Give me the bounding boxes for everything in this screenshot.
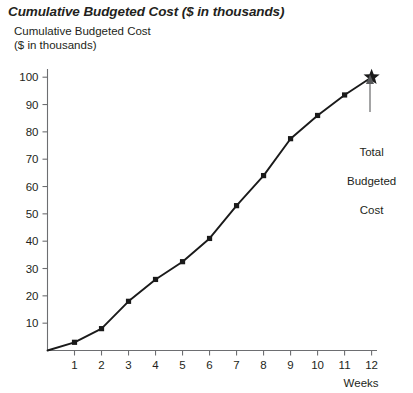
y-tick-label: 50 <box>26 208 39 220</box>
data-point-marker <box>234 203 239 208</box>
x-tick-label: 11 <box>339 359 351 371</box>
x-tick-label: 6 <box>206 359 212 371</box>
y-tick-label: 80 <box>26 126 39 138</box>
data-point-marker <box>207 236 212 241</box>
annotation-line-2: Budgeted <box>332 174 412 189</box>
data-point-marker <box>126 299 131 304</box>
data-point-marker <box>180 259 185 264</box>
x-tick-label: 9 <box>287 359 293 371</box>
series-markers <box>72 92 347 345</box>
y-tick-label: 20 <box>26 290 39 302</box>
y-axis-ticks: 102030405060708090100 <box>19 71 47 329</box>
x-tick-label: 4 <box>152 359 159 371</box>
data-point-marker <box>153 277 158 282</box>
x-tick-label: 12 <box>365 359 378 371</box>
x-tick-label: 1 <box>71 359 77 371</box>
x-axis-ticks: 123456789101112 <box>71 351 378 371</box>
y-tick-label: 70 <box>26 153 39 165</box>
data-point-marker <box>261 173 266 178</box>
y-tick-label: 40 <box>26 235 39 247</box>
x-tick-label: 3 <box>125 359 131 371</box>
data-point-marker <box>315 113 320 118</box>
series-line-cumulative-budgeted-cost <box>48 77 372 350</box>
y-tick-label: 90 <box>26 99 39 111</box>
y-tick-label: 30 <box>26 263 39 275</box>
annotation-line-1: Total <box>332 145 412 160</box>
x-tick-label: 8 <box>260 359 266 371</box>
x-tick-label: 2 <box>98 359 104 371</box>
data-point-marker <box>72 340 77 345</box>
chart-figure: Cumulative Budgeted Cost ($ in thousands… <box>0 0 413 393</box>
annotation-total-budgeted-cost: Total Budgeted Cost <box>332 130 412 232</box>
x-tick-label: 7 <box>233 359 239 371</box>
y-tick-label: 100 <box>19 71 38 83</box>
x-axis-title: Weeks <box>344 377 379 389</box>
data-point-marker <box>342 92 347 97</box>
data-point-marker <box>288 136 293 141</box>
x-tick-label: 5 <box>179 359 185 371</box>
y-tick-label: 10 <box>26 317 39 329</box>
y-tick-label: 60 <box>26 181 39 193</box>
data-point-marker <box>99 326 104 331</box>
annotation-line-3: Cost <box>332 203 412 218</box>
x-tick-label: 10 <box>311 359 324 371</box>
